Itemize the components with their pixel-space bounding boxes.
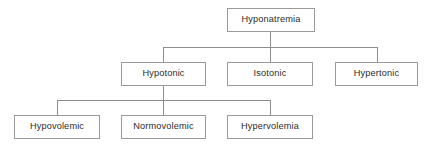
node-isotonic[interactable]: Isotonic xyxy=(227,62,313,86)
connector-hypotonic-stem-down xyxy=(163,86,164,101)
node-normovolemic[interactable]: Normovolemic xyxy=(121,115,206,139)
connector-drop-to-hypervolemia xyxy=(270,100,271,115)
node-hypervolemia[interactable]: Hypervolemia xyxy=(227,115,313,139)
hyponatremia-classification-diagram: Hyponatremia Hypotonic Isotonic Hyperton… xyxy=(0,0,428,153)
node-hypovolemic[interactable]: Hypovolemic xyxy=(14,115,100,139)
connector-drop-to-isotonic xyxy=(270,47,271,62)
node-hypertonic[interactable]: Hypertonic xyxy=(335,62,418,86)
connector-drop-to-hypertonic xyxy=(377,47,378,62)
connector-level3-bus-bar xyxy=(57,100,271,101)
connector-drop-to-hypovolemic xyxy=(57,100,58,115)
connector-drop-to-hypotonic xyxy=(163,47,164,62)
connector-root-stem-down xyxy=(270,32,271,47)
node-hypotonic[interactable]: Hypotonic xyxy=(121,62,206,86)
node-hyponatremia[interactable]: Hyponatremia xyxy=(227,8,315,32)
connector-drop-to-normovolemic xyxy=(163,100,164,115)
